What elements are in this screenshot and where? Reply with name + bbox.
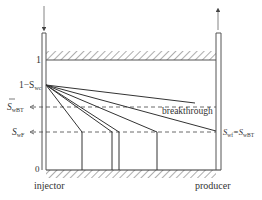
svg-text:SwBT: SwBT	[7, 102, 24, 113]
profile-4	[46, 85, 157, 170]
tick-swf: SwF	[12, 127, 25, 138]
svg-text:1−Swc: 1−Swc	[19, 80, 42, 91]
producer-saturation-label: Swf=SwBT	[223, 127, 255, 138]
svg-text:Swf=SwBT: Swf=SwBT	[223, 127, 255, 138]
bottom-boundary-hatch	[46, 170, 221, 178]
saturation-profiles	[46, 85, 216, 170]
producer-label: producer	[195, 180, 231, 191]
svg-text:SwF: SwF	[12, 127, 25, 138]
tick-zero: 0	[35, 164, 40, 174]
tick-swbt: SwBT	[7, 99, 24, 113]
tick-1-minus-swc: 1−Swc	[19, 80, 42, 91]
breakthrough-label: breakthrough	[162, 106, 213, 116]
top-boundary-hatch	[46, 51, 216, 60]
tick-one: 1	[36, 54, 41, 65]
swf-dashed-line	[30, 130, 216, 134]
saturation-profile-diagram: 1 1−Swc SwBT SwF 0 breakthrough Swf=SwBT…	[0, 0, 262, 200]
injector-label: injector	[34, 180, 65, 191]
producer-well	[216, 10, 221, 170]
injector-well	[42, 6, 46, 170]
